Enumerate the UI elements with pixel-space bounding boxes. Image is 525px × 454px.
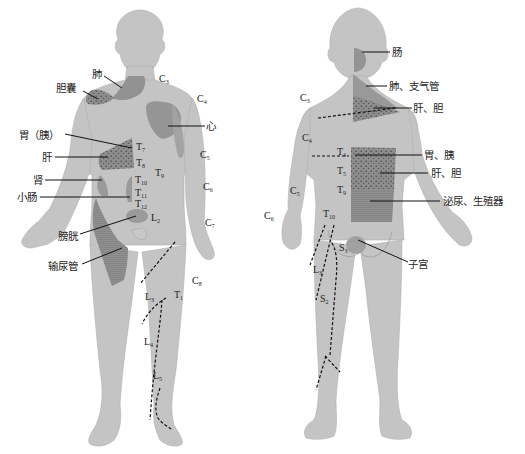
label-lung: 肺 [92, 68, 103, 80]
zone-bladder [126, 209, 148, 223]
label-stomach-pancreas: 胃（胰） [19, 129, 59, 141]
label-gallbladder: 胆囊 [56, 82, 77, 94]
label-liver-gall-lower: 肝、胆 [431, 167, 462, 179]
back-arm-left [282, 108, 310, 249]
label-heart: 心 [206, 120, 217, 132]
seg-back-c3: C3 [300, 92, 310, 104]
back-body [282, 8, 472, 439]
label-stomach-pancreas-back: 胃、胰 [424, 149, 455, 161]
front-body [22, 10, 215, 446]
label-kidney: 肾 [33, 174, 44, 186]
back-leg-right [360, 240, 412, 439]
seg-front-c7: C7 [205, 217, 215, 229]
label-bladder: 膀胱 [58, 230, 79, 242]
label-small-intestine: 小肠 [17, 191, 37, 203]
front-arm-left [22, 98, 92, 248]
label-uterus: 子宫 [408, 258, 428, 270]
label-liver: 肝 [42, 151, 53, 163]
label-liver-gall-upper: 肝、胆 [413, 102, 444, 114]
seg-front-c8: C8 [192, 275, 202, 287]
zone-urogenital [351, 190, 394, 222]
seg-front-c4: C4 [197, 93, 207, 105]
label-urogenital: 泌尿、生殖器 [443, 195, 504, 207]
label-lung-bronchus: 肺、支气管 [389, 80, 439, 92]
label-ureter: 输尿管 [48, 260, 78, 272]
seg-back-c6: C6 [264, 210, 274, 222]
label-intestine: 肠 [392, 46, 402, 58]
referred-pain-diagram: 肺 胆囊 心 胃（胰） 肝 肾 小肠 膀胱 输尿管 C3 C4 C5 C6 C7… [0, 0, 525, 454]
zone-uterus [346, 236, 366, 254]
seg-front-c5: C5 [200, 149, 210, 161]
seg-front-c3: C3 [159, 73, 169, 85]
seg-front-c6: C6 [203, 181, 213, 193]
zone-stomach-liver-back [351, 147, 396, 192]
